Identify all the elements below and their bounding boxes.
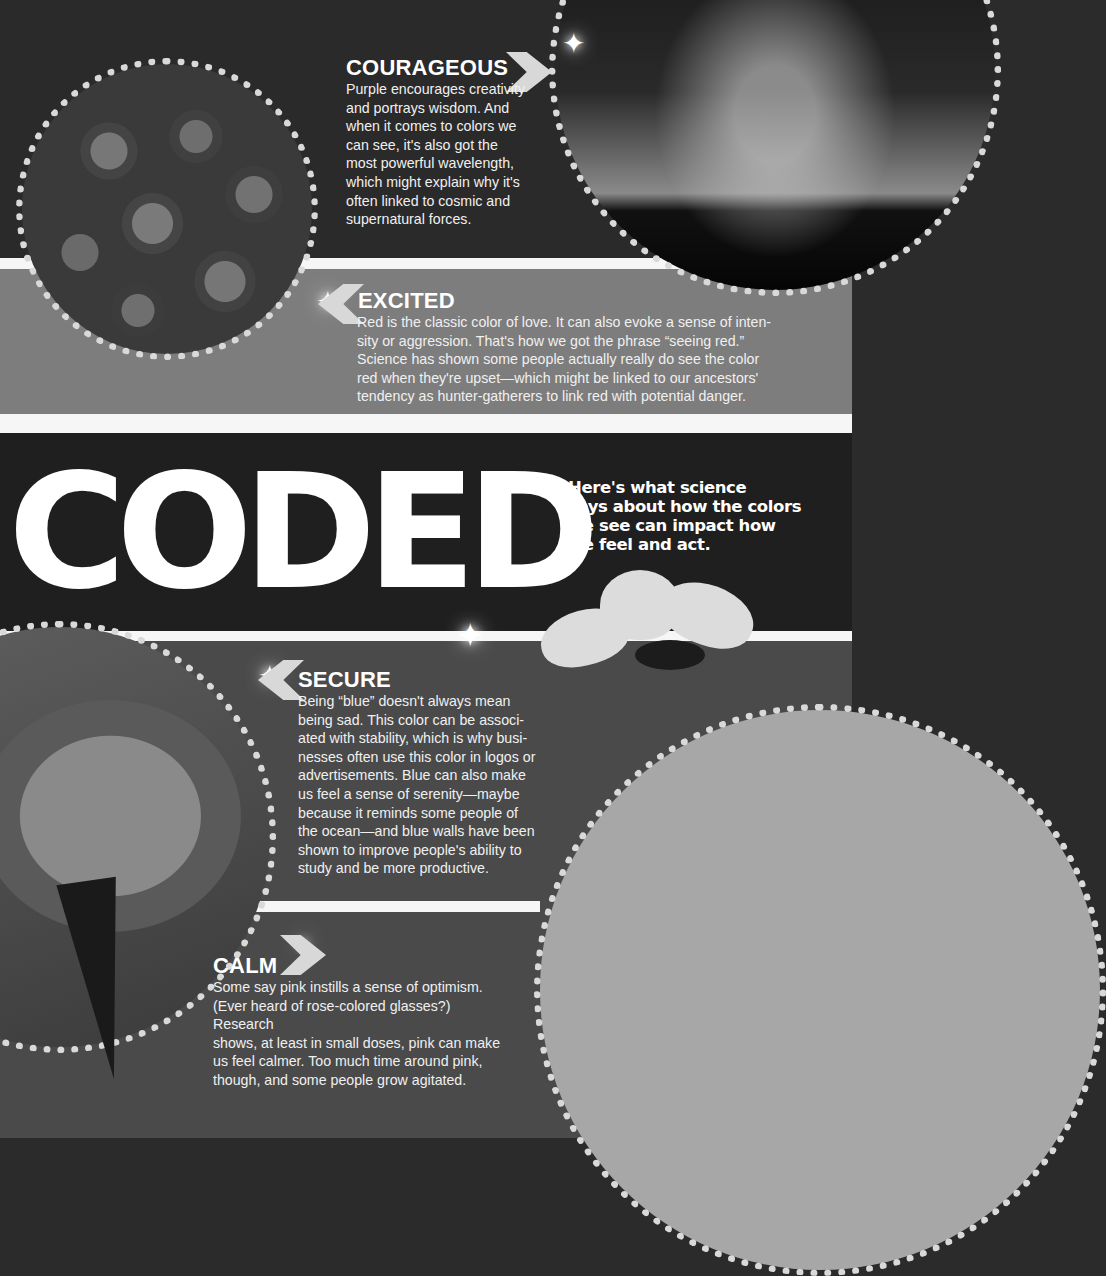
- bead-frame: [534, 704, 1106, 1276]
- sparkle-icon: ✦: [562, 30, 585, 58]
- page-title: CODED: [8, 452, 590, 612]
- calm-heading: CALM: [213, 953, 277, 979]
- secure-body: Being “blue” doesn't always mean being s…: [298, 692, 538, 878]
- secure-heading: SECURE: [298, 667, 391, 693]
- page-subtitle: Here's what science says about how the c…: [568, 478, 828, 554]
- calm-body: Some say pink instills a sense of optimi…: [213, 978, 513, 1090]
- bead-frame: [16, 58, 318, 360]
- white-stripe: [250, 901, 540, 912]
- white-stripe: [0, 414, 852, 433]
- courageous-body: Purple encourages creativity and portray…: [346, 80, 566, 229]
- excited-body: Red is the classic color of love. It can…: [357, 313, 852, 406]
- excited-heading: EXCITED: [358, 288, 455, 314]
- courageous-heading: COURAGEOUS: [346, 55, 508, 81]
